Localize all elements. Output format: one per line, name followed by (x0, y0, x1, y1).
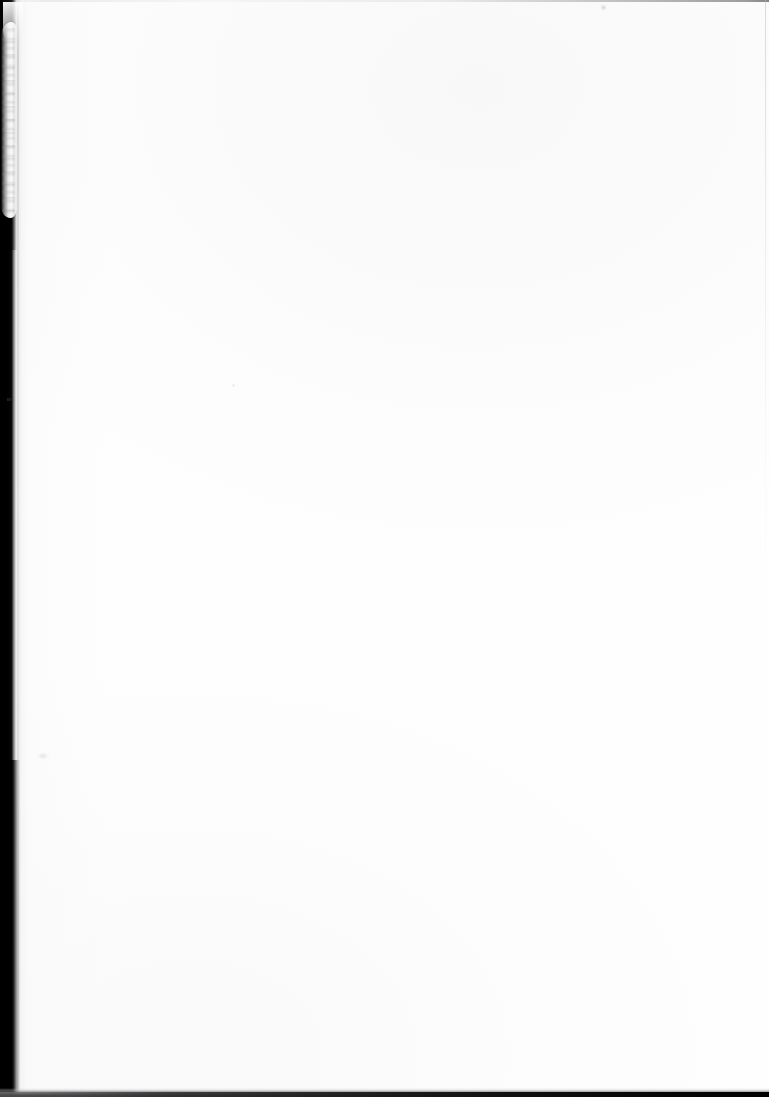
page-body-text (60, 70, 720, 1020)
scanned-document-page (0, 0, 769, 1097)
